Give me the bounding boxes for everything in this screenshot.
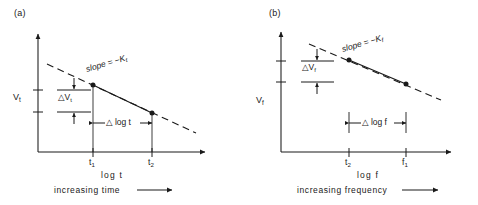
- panel-a-y-axis-label: Vt: [13, 92, 21, 103]
- panel-b-y-axis-subscript: f: [262, 99, 264, 106]
- panel-a-y-axis-subscript: t: [19, 96, 21, 103]
- panel-b-xtick-right: f1: [402, 157, 408, 168]
- panel-b-x-axis-title: log f: [357, 170, 379, 180]
- panel-b-delta-v-subscript: f: [314, 66, 316, 73]
- panel-a-delta-logt-label: △ log t: [106, 117, 131, 127]
- panel-b-delta-logf-label: △ log f: [362, 117, 387, 127]
- panel-b: (b): [239, 0, 478, 205]
- panel-a: (a): [0, 0, 239, 205]
- panel-a-xtick-t1-subscript: 1: [91, 161, 94, 168]
- panel-a-xtick-t1: t1: [89, 157, 95, 168]
- panel-b-direction-label: increasing frequency: [297, 185, 387, 195]
- panel-b-y-axis-label: Vf: [256, 95, 264, 106]
- panel-a-delta-v-subscript: t: [70, 96, 72, 103]
- figure-container: (a): [0, 0, 478, 205]
- panel-b-xtick-left-subscript: 2: [347, 161, 350, 168]
- panel-a-delta-v-label: △Vt: [58, 92, 72, 103]
- panel-b-xtick-right-subscript: 1: [404, 161, 407, 168]
- panel-a-delta-v-text: △V: [58, 92, 70, 102]
- panel-b-xtick-left: t2: [345, 157, 351, 168]
- panel-b-delta-v-label: △Vf: [302, 62, 316, 73]
- panel-a-x-axis-title: log t: [101, 170, 123, 180]
- panel-a-xtick-t2-subscript: 2: [150, 161, 153, 168]
- panel-a-direction-label: increasing time: [54, 185, 120, 195]
- panel-b-delta-v-text: △V: [302, 62, 314, 72]
- panel-a-xtick-t2: t2: [148, 157, 154, 168]
